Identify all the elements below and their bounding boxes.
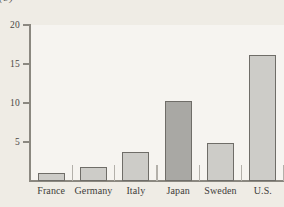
x-axis-label-u-s: U.S. — [242, 185, 284, 196]
x-axis-label-japan: Japan — [157, 185, 199, 196]
bar-series — [0, 0, 284, 207]
x-axis-label-italy: Italy — [115, 185, 157, 196]
bar-u-s[interactable] — [249, 55, 276, 181]
bar-chart: (b) 5101520 FranceGermanyItalyJapanSwede… — [0, 0, 284, 207]
x-axis-label-sweden: Sweden — [199, 185, 241, 196]
bar-italy[interactable] — [122, 152, 149, 181]
x-axis-label-france: France — [30, 185, 72, 196]
bar-france[interactable] — [38, 173, 65, 181]
x-axis-label-germany: Germany — [72, 185, 114, 196]
bar-japan[interactable] — [165, 101, 192, 181]
bar-sweden[interactable] — [207, 143, 234, 181]
bar-germany[interactable] — [80, 167, 107, 181]
